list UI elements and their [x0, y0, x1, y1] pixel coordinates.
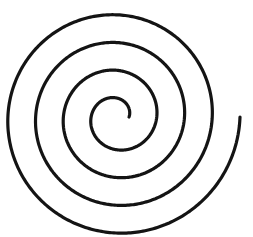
drawing-canvas [0, 0, 253, 237]
canvas-background [0, 0, 253, 237]
spiral-figure [0, 0, 253, 237]
